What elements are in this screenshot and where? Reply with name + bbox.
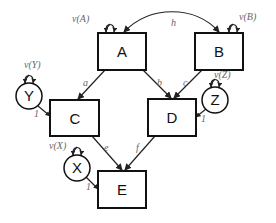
node-label-y: Y bbox=[24, 87, 34, 104]
edge-label-f: f bbox=[136, 142, 140, 153]
edge-label-a: a bbox=[83, 77, 88, 88]
node-label-c: C bbox=[70, 110, 81, 127]
edge-label-y-1: 1 bbox=[34, 108, 39, 119]
node-d: D bbox=[148, 99, 196, 136]
node-z: Z bbox=[202, 87, 228, 113]
node-y: Y bbox=[16, 83, 42, 109]
edge-y-c: 1 bbox=[34, 106, 50, 119]
edge-x-e: 1 bbox=[86, 177, 98, 192]
edge-label-x-1: 1 bbox=[86, 181, 91, 192]
edge-c: c bbox=[174, 70, 202, 98]
covariance-h: h bbox=[124, 12, 219, 32]
edge-label-c: c bbox=[183, 77, 188, 88]
node-b: B bbox=[195, 33, 243, 70]
arrow-icon bbox=[125, 136, 155, 170]
node-label-x: X bbox=[72, 159, 82, 176]
variance-label-y: v(Y) bbox=[24, 59, 41, 71]
variance-loop-x: v(X) bbox=[49, 140, 81, 155]
node-a: A bbox=[98, 33, 146, 70]
variance-label-x: v(X) bbox=[49, 140, 67, 152]
node-label-z: Z bbox=[210, 91, 219, 108]
edge-z-d: 1 bbox=[196, 109, 206, 124]
node-label-e: E bbox=[117, 181, 127, 198]
variance-loop-y: v(Y) bbox=[24, 59, 41, 83]
node-x: X bbox=[64, 155, 90, 181]
variance-label-b: v(B) bbox=[239, 11, 257, 23]
edge-label-z-1: 1 bbox=[201, 113, 206, 124]
edge-label-b: b bbox=[157, 77, 162, 88]
variance-loop-z: v(Z) bbox=[211, 69, 232, 87]
node-label-b: B bbox=[214, 43, 224, 60]
node-e: E bbox=[98, 171, 146, 208]
node-label-d: D bbox=[167, 109, 178, 126]
variance-loop-b: v(B) bbox=[229, 11, 257, 32]
path-diagram: h a b c e f 1 1 1 v(A) v(B) bbox=[0, 0, 276, 223]
arrow-icon bbox=[38, 106, 50, 116]
arrow-icon bbox=[174, 70, 202, 98]
edge-e: e bbox=[92, 136, 122, 170]
node-label-a: A bbox=[117, 43, 127, 60]
edge-f: f bbox=[125, 136, 155, 170]
edge-label-e: e bbox=[104, 142, 109, 153]
edge-b: b bbox=[143, 70, 171, 98]
node-c: C bbox=[50, 100, 99, 136]
edge-label-h: h bbox=[171, 17, 176, 28]
variance-loop-a: v(A) bbox=[72, 13, 114, 32]
edge-a: a bbox=[78, 70, 105, 99]
variance-label-a: v(A) bbox=[72, 13, 90, 25]
